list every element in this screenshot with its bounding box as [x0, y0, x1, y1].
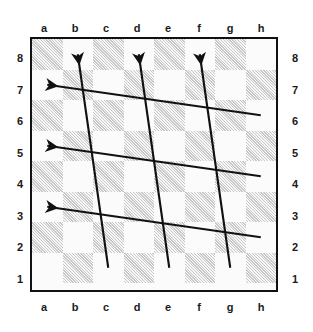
- square-b4: [63, 161, 94, 192]
- square-d4: [124, 161, 155, 192]
- square-f6: [185, 100, 216, 131]
- square-b2: [63, 222, 94, 253]
- square-e6: [154, 100, 185, 131]
- rank-label-left-1: 1: [12, 273, 28, 285]
- file-label-top-e: e: [160, 22, 176, 34]
- file-label-bottom-e: e: [160, 301, 176, 313]
- file-label-bottom-d: d: [129, 301, 145, 313]
- rank-label-right-6: 6: [287, 115, 303, 127]
- square-f3: [185, 192, 216, 223]
- file-label-bottom-c: c: [98, 301, 114, 313]
- square-h8: [246, 39, 277, 70]
- square-a2: [32, 222, 63, 253]
- chessboard-diagram: a b c d e f g h a b c d e f g h 8 7 6 5 …: [0, 0, 313, 332]
- square-e8: [154, 39, 185, 70]
- file-label-bottom-a: a: [36, 301, 52, 313]
- square-a5: [32, 131, 63, 162]
- rank-label-left-6: 6: [12, 115, 28, 127]
- square-b1: [63, 253, 94, 284]
- file-label-top-f: f: [191, 22, 207, 34]
- rank-label-right-7: 7: [287, 84, 303, 96]
- square-e1: [154, 253, 185, 284]
- square-c5: [93, 131, 124, 162]
- square-b6: [63, 100, 94, 131]
- square-b8: [63, 39, 94, 70]
- file-label-top-a: a: [36, 22, 52, 34]
- square-d6: [124, 100, 155, 131]
- rank-label-right-1: 1: [287, 273, 303, 285]
- square-f8: [185, 39, 216, 70]
- file-label-bottom-h: h: [253, 301, 269, 313]
- square-c3: [93, 192, 124, 223]
- square-d8: [124, 39, 155, 70]
- rank-label-right-4: 4: [287, 178, 303, 190]
- square-c7: [93, 70, 124, 101]
- file-label-bottom-b: b: [67, 301, 83, 313]
- square-a7: [32, 70, 63, 101]
- square-h7: [246, 70, 277, 101]
- square-h5: [246, 131, 277, 162]
- square-a4: [32, 161, 63, 192]
- square-f4: [185, 161, 216, 192]
- square-c1: [93, 253, 124, 284]
- square-b3: [63, 192, 94, 223]
- file-label-bottom-f: f: [191, 301, 207, 313]
- square-a3: [32, 192, 63, 223]
- square-e2: [154, 222, 185, 253]
- chessboard-squares: [32, 39, 276, 290]
- square-a6: [32, 100, 63, 131]
- square-d2: [124, 222, 155, 253]
- chessboard: [30, 37, 278, 292]
- square-g8: [215, 39, 246, 70]
- square-b5: [63, 131, 94, 162]
- square-e3: [154, 192, 185, 223]
- square-f7: [185, 70, 216, 101]
- square-d5: [124, 131, 155, 162]
- square-h3: [246, 192, 277, 223]
- square-g6: [215, 100, 246, 131]
- square-g4: [215, 161, 246, 192]
- square-h6: [246, 100, 277, 131]
- square-a8: [32, 39, 63, 70]
- rank-label-left-8: 8: [12, 52, 28, 64]
- rank-label-left-5: 5: [12, 147, 28, 159]
- rank-label-left-4: 4: [12, 178, 28, 190]
- square-b7: [63, 70, 94, 101]
- square-h2: [246, 222, 277, 253]
- square-c8: [93, 39, 124, 70]
- square-d7: [124, 70, 155, 101]
- square-h4: [246, 161, 277, 192]
- file-label-top-b: b: [67, 22, 83, 34]
- square-f2: [185, 222, 216, 253]
- square-g2: [215, 222, 246, 253]
- square-g5: [215, 131, 246, 162]
- rank-label-left-3: 3: [12, 210, 28, 222]
- rank-label-right-3: 3: [287, 210, 303, 222]
- file-label-top-c: c: [98, 22, 114, 34]
- square-h1: [246, 253, 277, 284]
- square-a1: [32, 253, 63, 284]
- file-label-top-d: d: [129, 22, 145, 34]
- square-d1: [124, 253, 155, 284]
- rank-label-left-7: 7: [12, 84, 28, 96]
- square-d3: [124, 192, 155, 223]
- file-label-top-g: g: [222, 22, 238, 34]
- rank-label-right-8: 8: [287, 52, 303, 64]
- file-label-bottom-g: g: [222, 301, 238, 313]
- square-f1: [185, 253, 216, 284]
- square-e7: [154, 70, 185, 101]
- square-g7: [215, 70, 246, 101]
- square-c4: [93, 161, 124, 192]
- square-e5: [154, 131, 185, 162]
- rank-label-right-2: 2: [287, 241, 303, 253]
- rank-label-right-5: 5: [287, 147, 303, 159]
- square-c6: [93, 100, 124, 131]
- file-label-top-h: h: [253, 22, 269, 34]
- square-e4: [154, 161, 185, 192]
- square-g1: [215, 253, 246, 284]
- square-c2: [93, 222, 124, 253]
- rank-label-left-2: 2: [12, 241, 28, 253]
- square-g3: [215, 192, 246, 223]
- square-f5: [185, 131, 216, 162]
